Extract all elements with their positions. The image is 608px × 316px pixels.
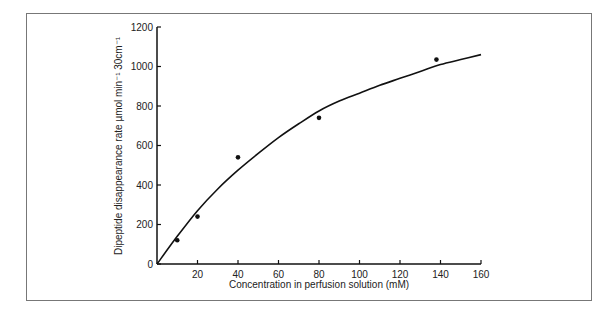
- y-tick-label: 200: [136, 219, 153, 230]
- y-tick-label: 400: [136, 180, 153, 191]
- data-point: [317, 116, 322, 121]
- y-axis-title: Dipeptide disappearance rate µmol min⁻¹ …: [113, 36, 124, 255]
- data-point: [195, 214, 200, 219]
- x-tick-label: 140: [432, 269, 449, 280]
- y-tick-label: 0: [147, 259, 153, 270]
- x-tick-label: 20: [192, 269, 204, 280]
- x-tick-label: 160: [473, 269, 490, 280]
- y-tick-label: 1000: [131, 61, 154, 72]
- chart: 0200400600800100012002040608010012014016…: [0, 0, 608, 316]
- fitted-curve-line: [157, 55, 481, 264]
- y-tick-label: 1200: [131, 22, 154, 33]
- data-point: [236, 155, 241, 160]
- y-tick-label: 600: [136, 140, 153, 151]
- y-tick-label: 800: [136, 101, 153, 112]
- x-axis-title: Concentration in perfusion solution (mM): [229, 279, 409, 290]
- data-point: [434, 57, 439, 62]
